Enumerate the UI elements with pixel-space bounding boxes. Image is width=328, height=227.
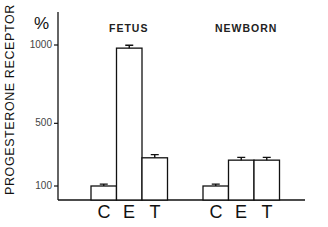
category-label-e: E bbox=[228, 202, 254, 223]
category-label-c: C bbox=[91, 202, 117, 223]
tick-label-500: 500 bbox=[22, 117, 52, 128]
tick-label-100: 100 bbox=[22, 180, 52, 191]
y-axis-unit: % bbox=[34, 14, 49, 34]
bar-newborn-t bbox=[254, 160, 280, 200]
bar-fetus-c bbox=[91, 186, 117, 200]
category-label-c: C bbox=[203, 202, 229, 223]
bar-newborn-e bbox=[229, 160, 255, 200]
category-label-t: T bbox=[142, 202, 168, 223]
bar-chart bbox=[0, 0, 328, 227]
category-label-e: E bbox=[116, 202, 142, 223]
tick-label-1000: 1000 bbox=[22, 39, 52, 50]
group-title-newborn: NEWBORN bbox=[215, 22, 277, 34]
group-title-fetus: FETUS bbox=[109, 22, 148, 34]
y-axis-title: PROGESTERONE RECEPTOR bbox=[3, 4, 17, 195]
category-label-t: T bbox=[254, 202, 280, 223]
bar-fetus-t bbox=[142, 158, 168, 200]
bar-fetus-e bbox=[117, 48, 143, 200]
bar-newborn-c bbox=[203, 186, 229, 200]
bars bbox=[91, 45, 280, 200]
